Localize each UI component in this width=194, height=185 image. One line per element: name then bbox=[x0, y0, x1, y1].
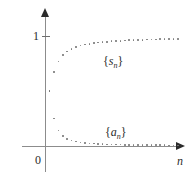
x-axis-line bbox=[22, 146, 179, 147]
data-point bbox=[89, 143, 91, 145]
data-point bbox=[128, 39, 130, 41]
y-tick-mark-1 bbox=[42, 36, 50, 37]
data-point bbox=[155, 39, 157, 41]
y-axis-line bbox=[45, 14, 46, 172]
data-point bbox=[115, 40, 117, 42]
data-point bbox=[102, 143, 104, 145]
series-label-partial-sums: {sn} bbox=[103, 55, 123, 72]
y-tick-label-1: 1 bbox=[33, 30, 39, 42]
data-point bbox=[146, 144, 148, 146]
data-point bbox=[137, 39, 139, 41]
data-point bbox=[146, 39, 148, 41]
data-point bbox=[137, 144, 139, 146]
data-point bbox=[133, 39, 135, 41]
data-point bbox=[89, 43, 91, 45]
data-point bbox=[97, 143, 99, 145]
data-point bbox=[168, 145, 170, 147]
x-axis-label: n bbox=[177, 155, 183, 167]
data-point bbox=[151, 144, 153, 146]
data-point bbox=[53, 71, 55, 73]
brace-close: } bbox=[117, 54, 123, 68]
data-point bbox=[128, 144, 130, 146]
data-point bbox=[84, 142, 86, 144]
data-point bbox=[58, 61, 60, 63]
data-point bbox=[80, 45, 82, 47]
data-point bbox=[177, 145, 179, 147]
sequence-convergence-figure: 1 0 n {sn} {an} bbox=[0, 0, 194, 185]
data-point bbox=[66, 51, 68, 53]
origin-label: 0 bbox=[35, 154, 41, 166]
data-point bbox=[164, 38, 166, 40]
data-point bbox=[97, 42, 99, 44]
data-point bbox=[53, 118, 55, 120]
data-point bbox=[177, 38, 179, 40]
brace-close: } bbox=[121, 125, 127, 139]
data-point bbox=[111, 144, 113, 146]
data-point bbox=[49, 90, 51, 92]
data-point bbox=[102, 41, 104, 43]
data-point bbox=[155, 144, 157, 146]
data-point bbox=[58, 130, 60, 132]
data-point bbox=[151, 39, 153, 41]
data-point bbox=[84, 44, 86, 46]
data-point bbox=[124, 40, 126, 42]
y-axis-arrow-icon bbox=[41, 8, 49, 17]
data-point bbox=[173, 38, 175, 40]
data-point bbox=[62, 135, 64, 137]
data-point bbox=[71, 140, 73, 142]
data-point bbox=[66, 138, 68, 140]
data-point bbox=[120, 40, 122, 42]
data-point bbox=[93, 143, 95, 145]
data-point bbox=[75, 141, 77, 143]
data-point bbox=[106, 41, 108, 43]
data-point bbox=[75, 46, 77, 48]
data-point bbox=[124, 144, 126, 146]
data-point bbox=[142, 39, 144, 41]
data-point bbox=[80, 142, 82, 144]
data-point bbox=[93, 42, 95, 44]
data-point bbox=[62, 54, 64, 56]
data-point bbox=[159, 38, 161, 40]
data-point bbox=[106, 144, 108, 146]
data-point bbox=[111, 40, 113, 42]
series-label-terms: {an} bbox=[105, 126, 127, 143]
data-point bbox=[71, 48, 73, 50]
data-point bbox=[168, 38, 170, 40]
